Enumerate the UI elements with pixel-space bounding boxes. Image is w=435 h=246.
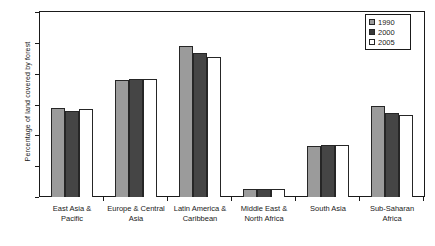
bar-2000[interactable] <box>193 53 207 197</box>
series-2000-swatch <box>369 29 375 35</box>
bar-2005[interactable] <box>335 145 349 197</box>
bar-group <box>40 12 104 197</box>
legend: 1990 2000 2005 <box>365 14 411 50</box>
x-axis-label: Latin America & Caribbean <box>168 204 232 224</box>
x-tick-mark <box>360 197 424 202</box>
y-tick-mark <box>35 43 39 44</box>
bar-2000[interactable] <box>257 189 271 197</box>
legend-label-1990: 1990 <box>378 18 395 27</box>
y-tick-mark <box>35 135 39 136</box>
legend-item-1990[interactable]: 1990 <box>369 17 407 27</box>
bar-1990[interactable] <box>307 146 321 197</box>
bar-2005[interactable] <box>143 79 157 197</box>
x-tick-mark <box>168 197 232 202</box>
x-axis-label: Middle East & North Africa <box>232 204 296 224</box>
y-tick-mark <box>35 105 39 106</box>
y-tick-mark <box>35 74 39 75</box>
series-1990-swatch <box>369 19 375 25</box>
x-tick-mark <box>104 197 168 202</box>
x-axis-label: East Asia & Pacific <box>40 204 104 224</box>
bar-2005[interactable] <box>207 57 221 197</box>
x-tick-mark <box>296 197 360 202</box>
y-tick-mark <box>35 197 39 198</box>
series-2005-swatch <box>369 39 375 45</box>
y-tick-mark <box>35 12 39 13</box>
bar-group <box>296 12 360 197</box>
x-axis-label: Sub-Saharan Africa <box>360 204 424 224</box>
legend-label-2000: 2000 <box>378 28 395 37</box>
x-tick-mark <box>232 197 296 202</box>
bar-2000[interactable] <box>65 111 79 197</box>
bar-2000[interactable] <box>129 79 143 197</box>
bar-2000[interactable] <box>321 145 335 197</box>
bar-group <box>104 12 168 197</box>
bar-2005[interactable] <box>79 109 93 197</box>
x-tick-mark <box>40 197 104 202</box>
bar-group <box>232 12 296 197</box>
forest-cover-bar-chart: Percentage of land covered by forest 010… <box>0 0 435 246</box>
legend-label-2005: 2005 <box>378 38 395 47</box>
x-axis-ticks <box>40 197 424 202</box>
bar-1990[interactable] <box>51 108 65 197</box>
bar-1990[interactable] <box>243 189 257 197</box>
legend-item-2005[interactable]: 2005 <box>369 37 407 47</box>
bar-1990[interactable] <box>179 46 193 197</box>
bar-1990[interactable] <box>115 80 129 197</box>
bar-2005[interactable] <box>399 115 413 197</box>
x-axis-label: Europe & Central Asia <box>104 204 168 224</box>
bar-2000[interactable] <box>385 113 399 197</box>
x-axis-label: South Asia <box>296 204 360 224</box>
legend-item-2000[interactable]: 2000 <box>369 27 407 37</box>
bar-group <box>168 12 232 197</box>
x-axis-labels: East Asia & PacificEurope & Central Asia… <box>40 204 424 224</box>
bar-2005[interactable] <box>271 189 285 197</box>
y-tick-mark <box>35 166 39 167</box>
bar-1990[interactable] <box>371 106 385 197</box>
